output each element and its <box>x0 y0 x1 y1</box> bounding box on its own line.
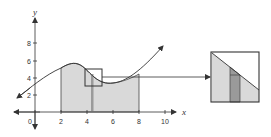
x-tick-4: 4 <box>85 118 89 125</box>
highlight-strip <box>91 74 94 112</box>
y-tick-4: 4 <box>27 75 31 82</box>
y-tick-6: 6 <box>27 58 31 65</box>
x-tick-8: 8 <box>137 118 141 125</box>
x-tick-2: 2 <box>59 118 63 125</box>
x-tick-10: 10 <box>161 118 169 125</box>
magnified-inset <box>211 52 259 102</box>
y-tick-2: 2 <box>27 92 31 99</box>
y-tick-8: 8 <box>27 40 31 47</box>
x-axis-label: x <box>181 107 186 117</box>
x-tick-6: 6 <box>111 118 115 125</box>
y-axis-label: y <box>32 7 37 17</box>
origin-label: 0 <box>28 118 32 125</box>
area-under-curve-diagram: 0 2 4 6 8 10 2 4 6 8 y x <box>0 0 271 137</box>
shaded-area <box>61 63 139 112</box>
